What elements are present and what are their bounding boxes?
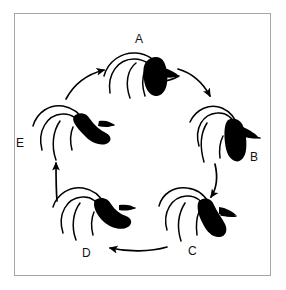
stage-label-e: E: [16, 137, 24, 149]
arrow-d-to-e: [56, 163, 57, 201]
stage-e-organism: [33, 106, 114, 160]
arrow-b-to-c: [211, 164, 217, 197]
stage-label-d: D: [82, 247, 91, 259]
arrow-a-to-b: [178, 69, 210, 96]
cycle-arrows: [56, 69, 217, 251]
stage-label-a: A: [135, 33, 143, 45]
stage-label-b: B: [250, 151, 258, 163]
arrow-c-to-d: [110, 247, 167, 251]
stage-c-organism: [159, 188, 236, 241]
stage-d-organism: [53, 188, 135, 240]
arrow-e-to-a: [66, 70, 104, 99]
stage-a-organism: [104, 53, 179, 98]
stage-label-c: C: [188, 245, 197, 257]
figure-root: A B C D E: [0, 0, 286, 290]
